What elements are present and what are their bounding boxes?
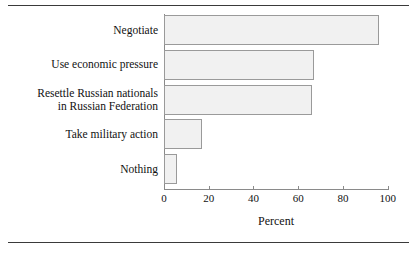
x-tick-label: 0	[144, 192, 184, 205]
figure-panel: 020406080100 NegotiateUse economic press…	[0, 0, 417, 256]
category-label: Resettle Russian nationals in Russian Fe…	[37, 87, 158, 113]
x-tick	[253, 186, 254, 190]
category-label: Use economic pressure	[51, 58, 158, 71]
x-tick	[343, 186, 344, 190]
category-label: Nothing	[120, 163, 158, 176]
bar	[164, 154, 177, 184]
x-tick-label: 80	[323, 192, 363, 205]
category-label: Take military action	[66, 128, 158, 141]
bar	[164, 50, 314, 80]
x-tick-label: 20	[189, 192, 229, 205]
x-axis-title: Percent	[164, 214, 388, 229]
x-tick	[388, 186, 389, 190]
category-label: Negotiate	[113, 24, 158, 37]
x-tick	[209, 186, 210, 190]
x-tick-label: 40	[233, 192, 273, 205]
x-tick-label: 100	[368, 192, 408, 205]
bar	[164, 15, 379, 45]
x-axis-line	[164, 189, 388, 190]
x-tick	[298, 186, 299, 190]
bar-chart-plot: 020406080100 NegotiateUse economic press…	[0, 0, 417, 256]
x-tick-label: 60	[278, 192, 318, 205]
x-tick	[164, 186, 165, 190]
bar	[164, 85, 312, 115]
bar	[164, 119, 202, 149]
